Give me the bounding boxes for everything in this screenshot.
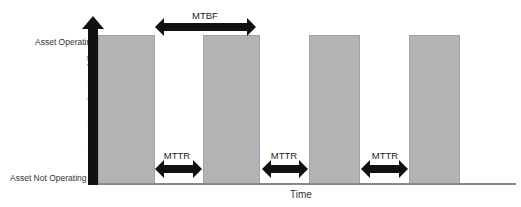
operating-bar-4: [409, 35, 460, 184]
x-axis-baseline: [96, 183, 516, 185]
operating-bar-3: [309, 35, 360, 184]
y-axis-arrowhead-icon: [82, 16, 104, 29]
operating-bar-2: [203, 35, 260, 184]
operating-bar-1: [98, 35, 155, 184]
mttr-double-arrow-icon-2: [270, 165, 300, 173]
x-axis-title: Time: [290, 189, 312, 200]
level-label-not-operating: Asset Not Operating: [10, 173, 87, 183]
mttr-double-arrow-icon-1: [163, 165, 194, 173]
y-axis-line: [88, 28, 98, 185]
mttr-double-arrow-icon-3: [369, 165, 400, 173]
mtbf-label: MTBF: [185, 10, 225, 21]
mtbf-double-arrow-icon: [163, 23, 248, 31]
